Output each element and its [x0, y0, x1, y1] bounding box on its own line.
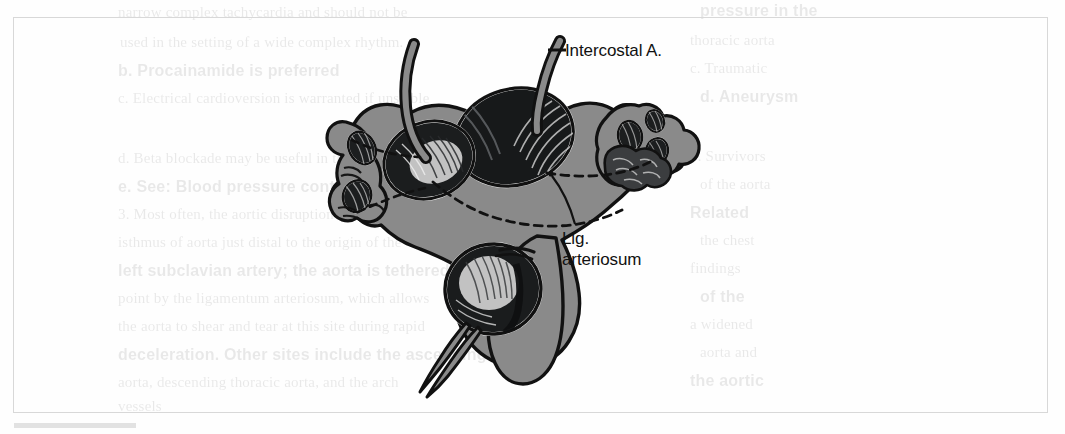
figure-page: narrow complex tachycardia and should no… [0, 0, 1065, 434]
label-ligamentum-arteriosum: Lig. arteriosum [562, 228, 641, 270]
label-lig-line1: Lig. [562, 228, 641, 249]
label-intercostal-artery: Intercostal A. [565, 40, 662, 61]
aorta-body [327, 41, 699, 397]
aortic-arch-illustration [0, 0, 1065, 434]
lig-arteriosum-anchor [548, 171, 553, 176]
label-lig-line2: arteriosum [562, 249, 641, 270]
